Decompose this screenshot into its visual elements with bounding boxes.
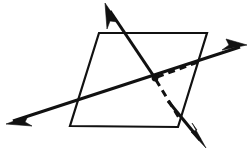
figure-background [0, 0, 250, 152]
geometry-figure: Two lines intersecting a plane at a poin… [0, 0, 250, 152]
intersection-point [152, 75, 159, 82]
